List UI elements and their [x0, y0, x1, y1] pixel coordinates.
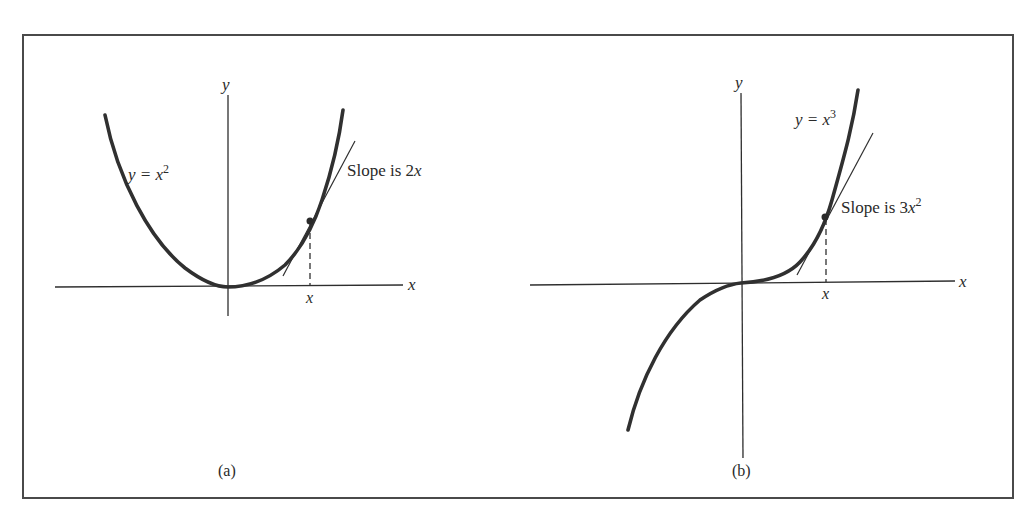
slope-label-b: Slope is 3x2: [841, 195, 922, 217]
tangent-line-a: [283, 141, 355, 276]
tick-label-a: x: [305, 289, 313, 306]
tick-label-b: x: [821, 285, 829, 302]
parabola-curve: [105, 110, 343, 287]
figure: y x x y = x2 Slope is 2x (a) y x x y: [0, 0, 1035, 518]
panel-b: y x x y = x3 Slope is 3x2 (b): [530, 73, 967, 480]
y-axis-label-b: y: [733, 73, 743, 92]
y-axis-b: [741, 93, 743, 458]
x-axis-label-b: x: [958, 272, 967, 291]
tangent-point-b: [822, 214, 829, 221]
figure-frame: [23, 35, 1013, 498]
tangent-point-a: [307, 218, 314, 225]
caption-a: (a): [218, 462, 236, 480]
slope-label-a: Slope is 2x: [347, 161, 422, 180]
x-axis-label-a: x: [407, 275, 416, 294]
caption-b: (b): [732, 462, 751, 480]
y-axis-label-a: y: [220, 75, 230, 94]
curve-label-b: y = x3: [793, 107, 836, 129]
curve-label-a: y = x2: [126, 162, 169, 184]
panel-a: y x x y = x2 Slope is 2x (a): [55, 75, 422, 480]
